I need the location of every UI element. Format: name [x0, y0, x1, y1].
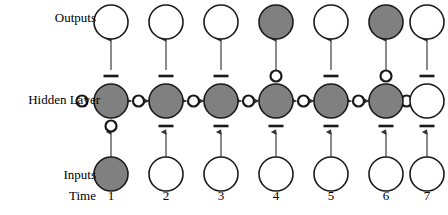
time-tick-label: 5 — [319, 188, 343, 204]
input-node — [149, 157, 183, 191]
output-node — [314, 5, 348, 39]
output-node — [410, 5, 444, 39]
input-node — [410, 157, 444, 191]
hidden-node — [369, 84, 403, 118]
recurrent-gate — [243, 96, 254, 107]
row-label-time: Time — [0, 188, 96, 204]
time-tick-label: 6 — [374, 188, 398, 204]
output-node — [204, 5, 238, 39]
output-node — [94, 5, 128, 39]
hidden-node — [149, 84, 183, 118]
input-node — [204, 157, 238, 191]
recurrent-gate — [188, 96, 199, 107]
time-tick-label: 1 — [99, 188, 123, 204]
output-gate — [381, 71, 392, 82]
recurrent-gate — [353, 96, 364, 107]
output-gate — [271, 71, 282, 82]
output-node — [149, 5, 183, 39]
time-tick-label: 3 — [209, 188, 233, 204]
nodes-layer — [94, 5, 444, 191]
input-gate — [106, 121, 117, 132]
hidden-node — [410, 84, 444, 118]
row-label-hidden: Hidden Layer — [0, 92, 100, 108]
recurrent-gate — [298, 96, 309, 107]
hidden-node — [204, 84, 238, 118]
time-tick-label: 4 — [264, 188, 288, 204]
output-node — [259, 5, 293, 39]
input-node — [94, 157, 128, 191]
recurrent-gate — [133, 96, 144, 107]
time-tick-label: 7 — [415, 188, 439, 204]
hidden-node — [314, 84, 348, 118]
input-node — [314, 157, 348, 191]
hidden-node — [259, 84, 293, 118]
row-label-outputs: Outputs — [0, 10, 96, 26]
input-node — [259, 157, 293, 191]
lstm-gate-diagram: Outputs Hidden Layer Inputs Time 1234567 — [0, 0, 448, 215]
time-tick-label: 2 — [154, 188, 178, 204]
row-label-inputs: Inputs — [0, 167, 96, 183]
output-node — [369, 5, 403, 39]
input-node — [369, 157, 403, 191]
